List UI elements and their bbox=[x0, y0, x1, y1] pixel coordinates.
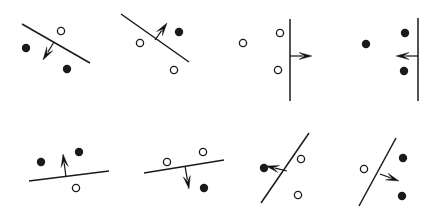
normal-vector-arrow bbox=[43, 42, 54, 60]
data-point-filled bbox=[37, 158, 45, 166]
data-point-filled bbox=[401, 29, 409, 37]
decision-boundary-line bbox=[29, 171, 109, 181]
arrow-head bbox=[43, 47, 53, 60]
panel-4 bbox=[362, 18, 418, 101]
data-point-filled bbox=[63, 65, 71, 73]
panel-7 bbox=[260, 133, 309, 203]
arrow-stem bbox=[380, 174, 390, 178]
data-point-open bbox=[294, 191, 301, 198]
panel-5 bbox=[29, 148, 109, 192]
panel-1 bbox=[22, 24, 90, 73]
data-point-open bbox=[276, 29, 283, 36]
decision-boundary-line bbox=[261, 133, 309, 203]
normal-vector-arrow bbox=[290, 52, 312, 59]
data-point-open bbox=[274, 66, 281, 73]
decision-boundary-line bbox=[121, 14, 189, 62]
arrow-stem bbox=[48, 42, 54, 52]
data-point-open bbox=[239, 39, 246, 46]
data-point-filled bbox=[399, 154, 407, 162]
data-point-filled bbox=[398, 192, 406, 200]
figure-canvas bbox=[0, 0, 433, 219]
data-point-filled bbox=[260, 164, 268, 172]
normal-vector-arrow bbox=[183, 166, 190, 189]
data-point-filled bbox=[22, 44, 30, 52]
data-point-filled bbox=[200, 184, 208, 192]
data-point-open bbox=[170, 66, 177, 73]
data-point-open bbox=[72, 184, 79, 191]
normal-vector-arrow bbox=[380, 173, 399, 181]
data-point-open bbox=[136, 39, 143, 46]
data-point-filled bbox=[175, 28, 183, 36]
normal-vector-arrow bbox=[155, 23, 167, 40]
decision-boundary-line bbox=[144, 160, 224, 173]
data-point-open bbox=[163, 158, 170, 165]
arrow-head bbox=[157, 23, 167, 36]
data-point-open bbox=[199, 148, 206, 155]
data-point-filled bbox=[400, 67, 408, 75]
arrow-stem bbox=[64, 163, 66, 177]
data-point-open bbox=[57, 27, 64, 34]
arrow-stem bbox=[155, 31, 162, 40]
data-point-filled bbox=[362, 40, 370, 48]
normal-vector-arrow bbox=[61, 154, 68, 177]
normal-vector-arrow bbox=[396, 52, 418, 59]
panel-2 bbox=[121, 14, 189, 74]
panel-3 bbox=[239, 19, 312, 101]
panel-6 bbox=[144, 148, 224, 192]
arrow-stem bbox=[185, 166, 187, 180]
data-point-filled bbox=[75, 148, 83, 156]
data-point-open bbox=[297, 155, 304, 162]
panel-8 bbox=[359, 138, 407, 206]
panels-group bbox=[22, 14, 418, 206]
classifier-boundary-figure bbox=[0, 0, 433, 219]
decision-boundary-line bbox=[22, 24, 90, 63]
data-point-open bbox=[360, 165, 367, 172]
